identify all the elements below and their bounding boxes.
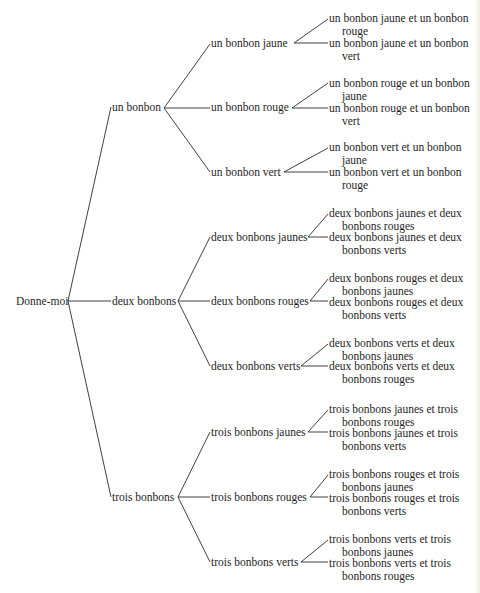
node-deux-jaunes: deux bonbons jaunes <box>211 231 307 244</box>
leaf: trois bonbons verts et troisbonbons roug… <box>329 557 479 583</box>
node-trois-bonbons: trois bonbons <box>112 491 174 504</box>
leaf: trois bonbons jaunes et troisbonbons rou… <box>329 403 479 429</box>
leaf-line1: deux bonbons rouges et deux <box>329 272 479 285</box>
leaf: un bonbon jaune et un bonbonrouge <box>329 12 479 38</box>
leaf: un bonbon jaune et un bonbonvert <box>329 37 479 63</box>
leaf-line2: rouge <box>329 179 479 192</box>
node-un-vert: un bonbon vert <box>211 166 281 179</box>
leaf-line1: trois bonbons jaunes et trois <box>329 427 479 440</box>
node-deux-rouges: deux bonbons rouges <box>211 295 309 308</box>
leaf-line1: un bonbon rouge et un bonbon <box>329 77 479 90</box>
page-edge-shading <box>474 0 480 593</box>
leaf-line1: trois bonbons verts et trois <box>329 557 479 570</box>
leaf: trois bonbons verts et troisbonbons jaun… <box>329 533 479 559</box>
leaf-line2: bonbons verts <box>329 505 479 518</box>
node-deux-verts: deux bonbons verts <box>211 360 300 373</box>
candy-tree-diagram: Donne-moi un bonbon deux bonbons trois b… <box>0 0 480 593</box>
leaf: un bonbon vert et un bonbonrouge <box>329 166 479 192</box>
leaf: deux bonbons rouges et deuxbonbons verts <box>329 296 479 322</box>
leaf: deux bonbons jaunes et deuxbonbons verts <box>329 231 479 257</box>
leaf-line2: bonbons verts <box>329 440 479 453</box>
leaf-line1: trois bonbons rouges et trois <box>329 468 479 481</box>
leaf-line1: un bonbon vert et un bonbon <box>329 141 479 154</box>
leaf-line1: un bonbon jaune et un bonbon <box>329 37 479 50</box>
leaf: un bonbon vert et un bonbonjaune <box>329 141 479 167</box>
leaf-line1: deux bonbons verts et deux <box>329 337 479 350</box>
leaf: trois bonbons rouges et troisbonbons jau… <box>329 468 479 494</box>
leaf-line1: un bonbon rouge et un bonbon <box>329 102 479 115</box>
leaf: trois bonbons rouges et troisbonbons ver… <box>329 492 479 518</box>
node-un-rouge: un bonbon rouge <box>211 101 289 114</box>
node-un-jaune: un bonbon jaune <box>211 37 288 50</box>
leaf-line1: un bonbon jaune et un bonbon <box>329 12 479 25</box>
node-trois-verts: trois bonbons verts <box>211 556 299 569</box>
leaf-line2: bonbons rouges <box>329 373 479 386</box>
leaf-line2: bonbons rouges <box>329 570 479 583</box>
node-trois-jaunes: trois bonbons jaunes <box>211 426 306 439</box>
leaf-line1: deux bonbons verts et deux <box>329 360 479 373</box>
leaf-line1: deux bonbons jaunes et deux <box>329 231 479 244</box>
node-un-bonbon: un bonbon <box>112 101 161 114</box>
leaf-line1: deux bonbons jaunes et deux <box>329 207 479 220</box>
leaf: deux bonbons rouges et deuxbonbons jaune… <box>329 272 479 298</box>
leaf-line2: bonbons verts <box>329 309 479 322</box>
leaf: deux bonbons jaunes et deuxbonbons rouge… <box>329 207 479 233</box>
leaf-line2: vert <box>329 115 479 128</box>
leaf: trois bonbons jaunes et troisbonbons ver… <box>329 427 479 453</box>
leaf-line1: trois bonbons jaunes et trois <box>329 403 479 416</box>
leaf-line1: deux bonbons rouges et deux <box>329 296 479 309</box>
leaf-line1: trois bonbons rouges et trois <box>329 492 479 505</box>
node-trois-rouges: trois bonbons rouges <box>211 491 307 504</box>
leaf: un bonbon rouge et un bonbonvert <box>329 102 479 128</box>
leaf-line2: bonbons verts <box>329 244 479 257</box>
root-node: Donne-moi <box>16 295 68 308</box>
leaf-line2: vert <box>329 50 479 63</box>
leaf: deux bonbons verts et deuxbonbons rouges <box>329 360 479 386</box>
node-deux-bonbons: deux bonbons <box>112 295 176 308</box>
leaf: un bonbon rouge et un bonbonjaune <box>329 77 479 103</box>
leaf-line1: un bonbon vert et un bonbon <box>329 166 479 179</box>
leaf-line1: trois bonbons verts et trois <box>329 533 479 546</box>
